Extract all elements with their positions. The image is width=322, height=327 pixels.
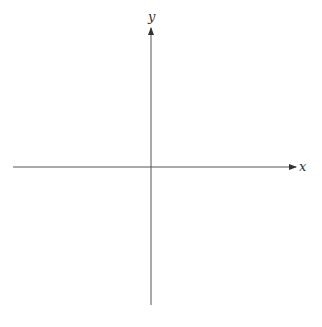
coordinate-plane: y x [0, 0, 322, 327]
y-axis-label: y [147, 9, 156, 24]
x-axis-label: x [299, 159, 307, 174]
